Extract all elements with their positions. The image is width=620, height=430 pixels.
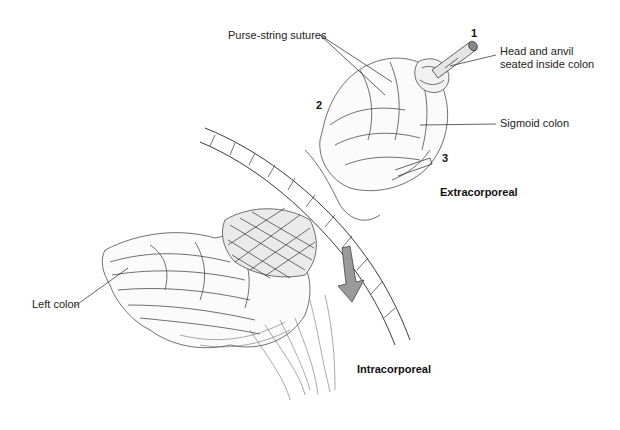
label-number-1: 1	[471, 27, 477, 39]
label-left-colon: Left colon	[32, 298, 80, 311]
label-sigmoid-colon: Sigmoid colon	[500, 117, 569, 130]
label-head-and-anvil-line1: Head and anvil	[500, 45, 594, 58]
label-head-and-anvil: Head and anvil seated inside colon	[500, 45, 594, 71]
region-extracorporeal: Extracorporeal	[440, 186, 518, 198]
label-head-and-anvil-line2: seated inside colon	[500, 58, 594, 71]
sigmoid-colon-drawing	[305, 58, 449, 220]
region-intracorporeal: Intracorporeal	[357, 363, 431, 375]
left-colon-drawing	[102, 208, 316, 348]
direction-arrow	[338, 246, 364, 302]
label-purse-string-sutures: Purse-string sutures	[228, 29, 326, 42]
label-number-3: 3	[442, 152, 448, 164]
label-number-2: 2	[316, 99, 322, 111]
anvil-shaft-drawing	[432, 40, 479, 78]
